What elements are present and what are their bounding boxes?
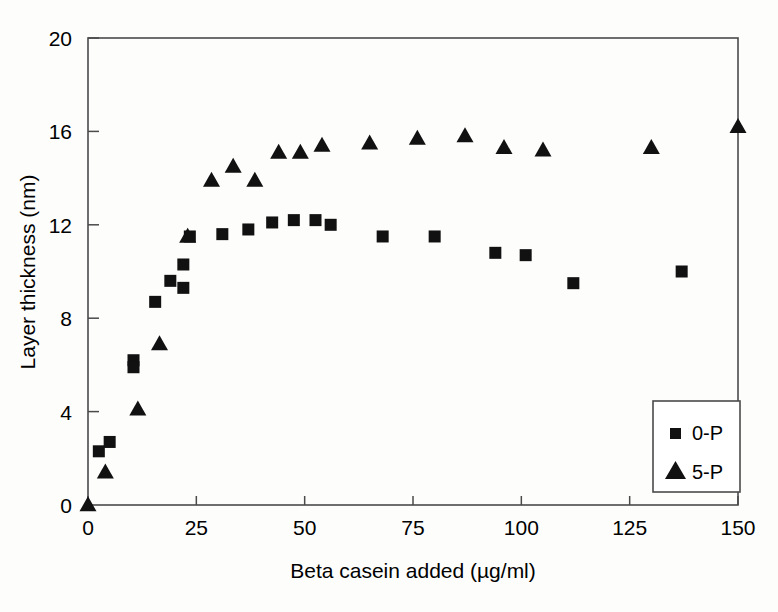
x-tick-label: 50 [293,516,316,539]
plot-frame-rect [88,38,738,505]
data-point-5-P [292,144,309,159]
legend-marker-square [670,428,681,439]
legend-label-1: 5-P [692,461,723,483]
figure-container: 0255075100125150 048121620 Beta casein a… [0,0,778,612]
data-point-5-P [270,144,287,159]
y-tick-label: 0 [60,494,72,517]
scatter-plot: 0255075100125150 048121620 Beta casein a… [0,0,778,612]
data-point-5-P [314,137,331,152]
x-tick-label: 100 [504,516,539,539]
data-point-5-P [457,127,474,142]
data-point-0-P [164,275,176,287]
plot-frame [88,38,738,505]
series-markers-5-P [80,118,747,511]
y-tick-label: 8 [60,307,72,330]
y-axis-title: Layer thickness (nm) [16,175,39,370]
data-point-5-P [97,464,114,479]
data-point-0-P [177,258,189,270]
x-tick-label: 150 [720,516,755,539]
data-point-5-P [225,158,242,173]
x-tick-label: 25 [185,516,208,539]
data-point-0-P [520,249,532,261]
y-tick-label: 4 [60,401,72,424]
x-tick-label: 125 [612,516,647,539]
series-markers-0-P [93,214,688,457]
data-point-0-P [104,436,116,448]
data-point-5-P [535,141,552,156]
y-tick-label: 12 [49,214,72,237]
y-tick-label: 16 [49,120,72,143]
data-point-0-P [567,277,579,289]
data-point-0-P [429,230,441,242]
data-point-0-P [325,219,337,231]
data-point-0-P [242,223,254,235]
data-point-5-P [203,172,220,187]
data-point-5-P [129,401,146,416]
data-point-0-P [676,266,688,278]
data-point-0-P [216,228,228,240]
data-point-0-P [266,216,278,228]
data-point-5-P [730,118,747,133]
y-axis-ticks [88,38,99,412]
data-point-0-P [288,214,300,226]
data-point-5-P [496,139,513,154]
data-point-0-P [128,361,140,373]
data-point-0-P [489,247,501,259]
data-point-5-P [361,134,378,149]
y-axis-tick-labels: 048121620 [49,27,73,517]
x-tick-label: 0 [82,516,94,539]
data-point-0-P [310,214,322,226]
legend-label-0: 0-P [692,422,723,444]
data-point-0-P [177,282,189,294]
data-point-5-P [151,335,168,350]
y-tick-label: 20 [49,27,72,50]
data-point-0-P [377,230,389,242]
x-axis-tick-labels: 0255075100125150 [82,516,755,539]
data-point-5-P [80,496,97,511]
data-point-5-P [643,139,660,154]
data-point-0-P [93,445,105,457]
x-tick-label: 75 [401,516,424,539]
x-axis-title: Beta casein added (µg/ml) [290,559,536,582]
data-point-5-P [409,130,426,145]
legend: 0-P 5-P [653,401,740,492]
data-point-0-P [149,296,161,308]
x-axis-ticks [88,496,738,505]
data-point-5-P [246,172,263,187]
